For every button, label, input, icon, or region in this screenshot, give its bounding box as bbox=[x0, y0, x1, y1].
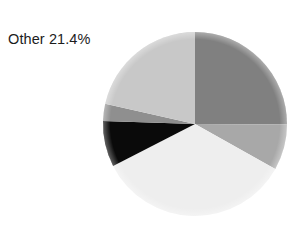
pie-edge-softener bbox=[103, 32, 287, 216]
chart-canvas: Other 21.4% bbox=[0, 0, 304, 238]
other-slice-label: Other 21.4% bbox=[8, 30, 91, 48]
